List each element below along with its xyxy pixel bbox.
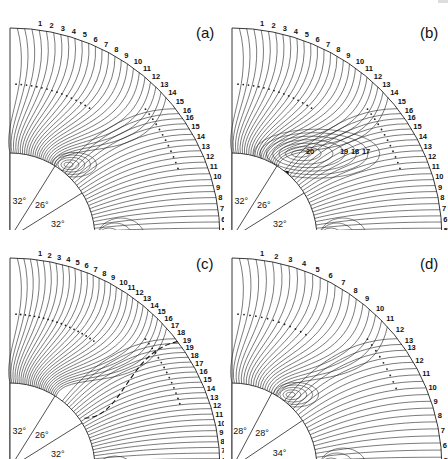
sector-angle-label: 34° <box>273 448 287 458</box>
panel-d-graphics: 28°28°34°123456789101112131312111098765 <box>231 249 448 459</box>
streamline-number: 9 <box>111 273 115 282</box>
streamline-number: 5 <box>305 30 309 39</box>
streamline-number: 12 <box>428 152 436 161</box>
streamline-number: 4 <box>294 27 299 36</box>
vortex-streamline-number: 20 <box>306 147 314 156</box>
streamline-number: 7 <box>221 446 225 455</box>
streamline-number: 3 <box>61 24 65 33</box>
streamline-number: 10 <box>435 172 443 181</box>
streamline-number: 6 <box>443 441 447 450</box>
streamline-number: 5 <box>83 30 87 39</box>
streamline-number: 6 <box>443 215 447 224</box>
streamline-number: 2 <box>271 21 275 30</box>
bottom-eddies <box>319 448 367 459</box>
streamline-number: 12 <box>374 72 382 81</box>
sector-angle-label: 32° <box>13 196 27 206</box>
sector-angle-label: 28° <box>255 428 269 438</box>
streamline-number: 5 <box>76 258 80 267</box>
streamline-number: 7 <box>94 265 98 274</box>
streamline-number: 16 <box>185 113 193 122</box>
streamline-number: 14 <box>168 88 177 97</box>
streamline-number: 3 <box>283 24 287 33</box>
streamline-number: 12 <box>213 401 221 410</box>
sector-angle-label: 32° <box>273 219 287 229</box>
vortex-streamline-number: 19 <box>340 147 348 156</box>
streamline-number: 9 <box>438 183 442 192</box>
streamline-number: 9 <box>365 294 369 303</box>
streamline-number: 7 <box>104 40 108 49</box>
corner-mark <box>438 0 448 3</box>
streamline-number: 8 <box>102 269 106 278</box>
streamline-number: 7 <box>220 204 224 213</box>
streamline-number: 8 <box>218 193 222 202</box>
streamline-number: 11 <box>365 64 373 73</box>
streamline-number: 10 <box>356 57 364 66</box>
streamline-number: 12 <box>152 72 160 81</box>
streamline-number: 7 <box>442 204 446 213</box>
streamline-number: 6 <box>85 261 89 270</box>
streamline-number: 15 <box>398 97 406 106</box>
sector-angle-label: 26° <box>257 200 271 210</box>
streamline-number: 2 <box>49 21 53 30</box>
streamline-number: 4 <box>302 259 307 268</box>
streamline-number: 6 <box>94 35 98 44</box>
streamline-number: 7 <box>341 278 345 287</box>
streamline-number: 2 <box>274 252 278 261</box>
streamline-number: 9 <box>219 428 223 437</box>
streamline-number: 1 <box>260 19 264 28</box>
streamline-number: 11 <box>215 410 223 419</box>
streamline-number: 11 <box>143 64 151 73</box>
streamline-number: 14 <box>419 132 428 141</box>
streamline-number: 14 <box>390 88 399 97</box>
streamline-number: 16 <box>407 113 415 122</box>
bottom-eddies <box>319 218 367 238</box>
streamline-figure: (a) (b) (c) (d) 32°26°32°123456789101112… <box>0 0 448 459</box>
streamline-number: 11 <box>210 162 218 171</box>
sector-angle-label: 28° <box>233 426 247 436</box>
streamline-number: 5 <box>222 226 226 235</box>
streamline-number: 10 <box>213 172 221 181</box>
streamline-number: 5 <box>316 265 320 274</box>
streamline-number: 8 <box>440 193 444 202</box>
streamline-number: 10 <box>134 57 142 66</box>
streamline-number: 13 <box>210 393 218 402</box>
sector-angle-label: 26° <box>35 430 49 440</box>
sector-angle-label: 26° <box>35 200 49 210</box>
streamline-number: 12 <box>396 325 404 334</box>
streamline-number: 6 <box>222 456 226 459</box>
streamline-number: 13 <box>424 142 432 151</box>
streamline-number: 10 <box>428 383 436 392</box>
sector-angle-label: 32° <box>51 449 65 459</box>
streamline-number: 15 <box>176 97 184 106</box>
streamline-number: 10 <box>376 304 384 313</box>
streamline-number: 7 <box>441 426 445 435</box>
streamline-number: 1 <box>38 19 42 28</box>
streamline-number: 8 <box>336 45 340 54</box>
streamline-number: 9 <box>124 51 128 60</box>
streamline-number: 4 <box>66 255 71 264</box>
streamline-number: 5 <box>444 226 448 235</box>
streamline-number: 8 <box>114 45 118 54</box>
streamline-number: 2 <box>48 251 52 260</box>
streamline-number: 8 <box>438 411 442 420</box>
streamline-number: 12 <box>206 152 214 161</box>
streamline-number: 9 <box>346 51 350 60</box>
streamline-plot: 32°26°32°1234567891011121314151616151413… <box>0 0 448 459</box>
streamline-number: 10 <box>217 419 225 428</box>
streamline-number: 6 <box>316 35 320 44</box>
streamline-number: 1 <box>260 249 264 258</box>
sector-angle-label: 32° <box>51 219 65 229</box>
streamline-number: 3 <box>57 253 61 262</box>
vortex-streamline-number: 17 <box>362 147 370 156</box>
panel-a-graphics: 32°26°32°1234567891011121314151616151413… <box>9 19 226 238</box>
streamline-number: 14 <box>197 132 206 141</box>
streamline-number: 9 <box>434 397 438 406</box>
streamline-number: 12 <box>415 356 423 365</box>
streamline-number: 11 <box>432 162 440 171</box>
streamline-number: 3 <box>288 255 292 264</box>
streamline-number: 11 <box>422 369 430 378</box>
streamline-number: 6 <box>221 215 225 224</box>
streamline-number: 11 <box>386 314 394 323</box>
streamline-number: 1 <box>38 249 42 258</box>
streamline-number: 13 <box>407 343 415 352</box>
